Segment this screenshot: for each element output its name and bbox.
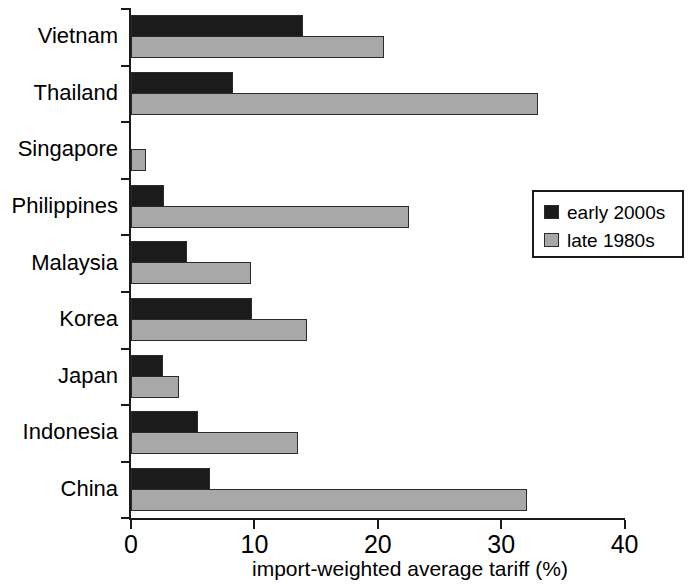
category-label-korea: Korea bbox=[0, 306, 118, 332]
bar-early-2000s-indonesia bbox=[131, 411, 198, 433]
bar-late-1980s-vietnam bbox=[131, 36, 384, 58]
bar-late-1980s-indonesia bbox=[131, 432, 298, 454]
legend: early 2000s late 1980s bbox=[532, 190, 684, 258]
category-row: Vietnam bbox=[0, 8, 690, 65]
bar-late-1980s-thailand bbox=[131, 93, 538, 115]
x-axis-tick-label: 10 bbox=[240, 530, 268, 559]
category-row: Japan bbox=[0, 348, 690, 405]
category-row: Thailand bbox=[0, 65, 690, 122]
x-axis-tick bbox=[253, 520, 255, 529]
category-label-singapore: Singapore bbox=[0, 136, 118, 162]
x-axis-title: import-weighted average tariff (%) bbox=[0, 557, 690, 581]
category-row: China bbox=[0, 461, 690, 518]
legend-swatch-late-1980s bbox=[544, 233, 559, 247]
bar-late-1980s-japan bbox=[131, 376, 179, 398]
bar-late-1980s-philippines bbox=[131, 206, 409, 228]
category-label-malaysia: Malaysia bbox=[0, 250, 118, 276]
category-label-vietnam: Vietnam bbox=[0, 23, 118, 49]
category-row: Korea bbox=[0, 291, 690, 348]
legend-label: early 2000s bbox=[567, 203, 665, 222]
bar-chart: VietnamThailandSingaporePhilippinesMalay… bbox=[0, 0, 690, 584]
legend-label: late 1980s bbox=[567, 231, 655, 250]
category-row: Singapore bbox=[0, 121, 690, 178]
bar-late-1980s-korea bbox=[131, 319, 307, 341]
x-axis-tick-label: 0 bbox=[124, 530, 138, 559]
bar-early-2000s-malaysia bbox=[131, 241, 187, 263]
category-row: Indonesia bbox=[0, 404, 690, 461]
x-axis-tick bbox=[500, 520, 502, 529]
category-label-philippines: Philippines bbox=[0, 193, 118, 219]
bar-early-2000s-vietnam bbox=[131, 15, 303, 37]
legend-item[interactable]: late 1980s bbox=[544, 227, 682, 253]
y-axis-tick bbox=[121, 517, 130, 519]
category-label-thailand: Thailand bbox=[0, 80, 118, 106]
x-axis-tick-label: 40 bbox=[611, 530, 639, 559]
category-label-indonesia: Indonesia bbox=[0, 419, 118, 445]
x-axis-tick-label: 20 bbox=[364, 530, 392, 559]
bar-early-2000s-japan bbox=[131, 355, 163, 377]
x-axis-tick bbox=[377, 520, 379, 529]
legend-swatch-early-2000s bbox=[544, 205, 559, 219]
x-axis-tick bbox=[130, 520, 132, 529]
bar-early-2000s-philippines bbox=[131, 185, 164, 207]
x-axis-tick-label: 30 bbox=[487, 530, 515, 559]
legend-item[interactable]: early 2000s bbox=[544, 199, 682, 225]
bar-early-2000s-korea bbox=[131, 298, 252, 320]
bar-late-1980s-singapore bbox=[131, 149, 146, 171]
x-axis-tick bbox=[624, 520, 626, 529]
category-label-china: China bbox=[0, 476, 118, 502]
bar-early-2000s-thailand bbox=[131, 72, 233, 94]
category-label-japan: Japan bbox=[0, 363, 118, 389]
bar-late-1980s-china bbox=[131, 489, 527, 511]
bar-early-2000s-china bbox=[131, 468, 210, 490]
bar-late-1980s-malaysia bbox=[131, 262, 251, 284]
